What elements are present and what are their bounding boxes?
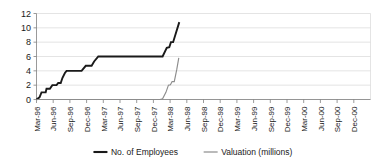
x-tick-label: Jun-99 — [250, 106, 259, 131]
series-line-employees — [37, 22, 180, 99]
x-tick-label: Jun-00 — [317, 106, 326, 131]
x-tick-label: Mar-98 — [166, 106, 175, 132]
x-tick-label: Mar-96 — [33, 106, 42, 132]
x-tick-label: Dec-99 — [283, 106, 292, 132]
y-tick-labels-group: 024681012 — [21, 9, 31, 105]
legend-label: No. of Employees — [111, 147, 178, 157]
y-tick-label: 4 — [26, 66, 31, 76]
x-tick-label: Sep-98 — [200, 106, 209, 132]
chart-legend: No. of EmployeesValuation (millions) — [93, 147, 292, 157]
x-tick-label: Sep-99 — [267, 106, 276, 132]
chart-container: 024681012 Mar-96Jun-96Sep-96Dec-96Mar-97… — [0, 0, 387, 164]
x-tick-label: Sep-00 — [333, 106, 342, 132]
y-tick-label: 2 — [26, 80, 31, 90]
x-tick-label: Sep-97 — [133, 106, 142, 132]
x-tick-label: Jun-97 — [116, 106, 125, 131]
x-tick-label: Dec-96 — [83, 106, 92, 132]
x-tick-label: Dec-00 — [350, 106, 359, 132]
y-tick-label: 8 — [26, 37, 31, 47]
data-series-group — [37, 22, 180, 99]
x-tick-label: Jun-96 — [49, 106, 58, 131]
x-tick-labels-group: Mar-96Jun-96Sep-96Dec-96Mar-97Jun-97Sep-… — [33, 106, 359, 132]
legend-item[interactable]: Valuation (millions) — [204, 147, 293, 157]
x-tick-label: Dec-97 — [150, 106, 159, 132]
x-tick-label: Dec-98 — [216, 106, 225, 132]
x-tick-label: Jun-98 — [183, 106, 192, 131]
line-chart: 024681012 Mar-96Jun-96Sep-96Dec-96Mar-97… — [0, 0, 387, 164]
y-tick-label: 12 — [21, 9, 31, 19]
x-tick-label: Mar-97 — [100, 106, 109, 132]
y-tick-label: 10 — [21, 23, 31, 33]
series-line-valuation — [37, 58, 179, 100]
legend-label: Valuation (millions) — [221, 147, 292, 157]
x-tick-label: Sep-96 — [66, 106, 75, 132]
gridlines-group — [37, 14, 371, 100]
x-tick-label: Mar-99 — [233, 106, 242, 132]
y-tick-label: 6 — [26, 52, 31, 62]
legend-item[interactable]: No. of Employees — [93, 147, 178, 157]
y-tick-label: 0 — [26, 95, 31, 105]
x-tick-label: Mar-00 — [300, 106, 309, 132]
